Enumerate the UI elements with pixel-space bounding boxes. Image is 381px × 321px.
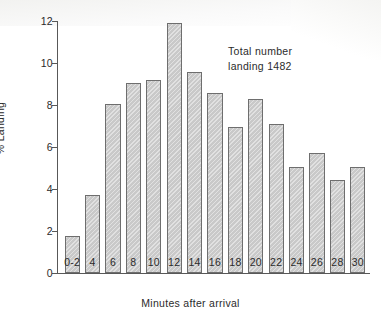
x-tick-label: 12 — [168, 256, 180, 268]
x-tick-label: 24 — [290, 256, 302, 268]
bar — [187, 72, 202, 273]
x-tick-label: 30 — [352, 256, 364, 268]
x-axis-label: Minutes after arrival — [0, 297, 381, 309]
bar — [248, 99, 263, 273]
bar — [146, 80, 161, 273]
y-axis-line — [57, 21, 58, 274]
chart-figure: % Landing Total number landing 1482 0246… — [0, 0, 381, 321]
x-tick-label: 28 — [331, 256, 343, 268]
x-axis-line — [57, 273, 370, 274]
x-tick-label: 10 — [148, 256, 160, 268]
y-tick-label: 12 — [41, 15, 53, 27]
bar — [167, 23, 182, 273]
x-tick-label: 26 — [311, 256, 323, 268]
bar — [126, 83, 141, 273]
x-tick-label: 0-2 — [64, 256, 80, 268]
y-tick-label: 2 — [47, 225, 53, 237]
x-tick-label: 22 — [270, 256, 282, 268]
y-tick-label: 10 — [41, 57, 53, 69]
bar — [105, 104, 120, 273]
y-tick-label: 0 — [47, 267, 53, 279]
x-tick-label: 6 — [110, 256, 116, 268]
x-tick-label: 18 — [229, 256, 241, 268]
bar — [269, 124, 284, 273]
y-tick-label: 8 — [47, 99, 53, 111]
x-tick-label: 14 — [188, 256, 200, 268]
x-tick-label: 4 — [90, 256, 96, 268]
y-tick-label: 6 — [47, 141, 53, 153]
x-tick-label: 16 — [209, 256, 221, 268]
bar — [228, 127, 243, 273]
bar — [207, 93, 222, 273]
x-tick-label: 8 — [130, 256, 136, 268]
y-axis-label: % Landing — [0, 102, 6, 154]
plot-area: 024681012 — [57, 21, 370, 273]
x-tick-label: 20 — [250, 256, 262, 268]
y-tick-label: 4 — [47, 183, 53, 195]
